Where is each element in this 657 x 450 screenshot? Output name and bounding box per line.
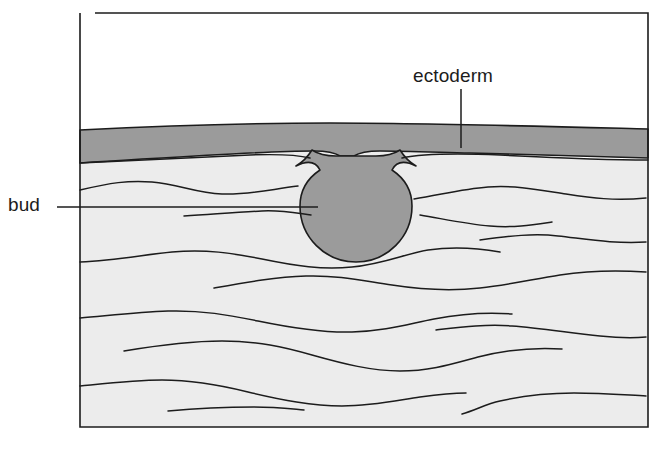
bud-label: bud bbox=[8, 194, 40, 215]
diagram-canvas: ectoderm bud bbox=[0, 0, 657, 450]
ectoderm-label: ectoderm bbox=[413, 65, 493, 86]
diagram-figure: ectoderm bud bbox=[0, 0, 657, 450]
